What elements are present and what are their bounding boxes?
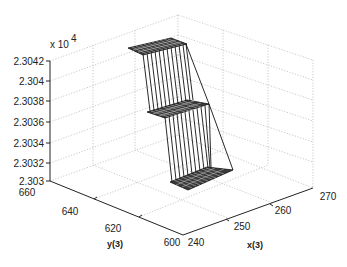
svg-text:600: 600	[164, 237, 181, 248]
y-tick-labels: 660 640 620 600	[19, 187, 181, 248]
axes	[46, 61, 313, 235]
svg-text:660: 660	[19, 187, 36, 198]
z-exponent: x 10 4	[50, 33, 77, 50]
surface-plot: 2.3042 2.304 2.3038 2.3036 2.3034 2.3032…	[0, 0, 347, 267]
grid-back-right	[178, 15, 313, 188]
plateau-middle	[147, 100, 209, 118]
svg-text:2.3042: 2.3042	[13, 56, 44, 67]
svg-text:4: 4	[71, 33, 77, 44]
y-axis-label: y(3)	[107, 239, 123, 249]
svg-text:2.3032: 2.3032	[13, 158, 44, 169]
svg-text:2.304: 2.304	[19, 76, 44, 87]
svg-text:x 10: x 10	[50, 39, 69, 50]
svg-text:250: 250	[234, 221, 251, 232]
x-axis-label: x(3)	[247, 240, 263, 250]
svg-text:620: 620	[105, 223, 122, 234]
grid-floor	[50, 135, 313, 218]
wall-high-to-mid	[143, 44, 209, 111]
z-tick-labels: 2.3042 2.304 2.3038 2.3036 2.3034 2.3032…	[13, 56, 44, 187]
svg-text:2.3036: 2.3036	[13, 117, 44, 128]
grid-back-left	[50, 15, 178, 165]
svg-text:240: 240	[188, 237, 205, 248]
svg-text:2.3038: 2.3038	[13, 96, 44, 107]
svg-text:260: 260	[275, 205, 292, 216]
svg-text:640: 640	[62, 206, 79, 217]
svg-text:270: 270	[320, 191, 337, 202]
svg-text:2.3034: 2.3034	[13, 138, 44, 149]
svg-text:2.303: 2.303	[19, 176, 44, 187]
